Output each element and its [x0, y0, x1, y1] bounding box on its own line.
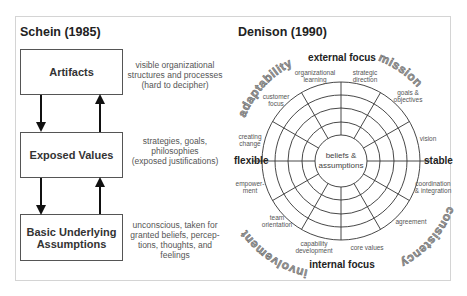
- index-goals-objectives: goals & objectives: [388, 89, 428, 103]
- trait-adaptability: adaptability: [235, 56, 295, 120]
- index-capability-development: capability development: [292, 240, 336, 254]
- index-creating-change: creating change: [235, 133, 265, 147]
- index-customer-focus: customer focus: [260, 93, 292, 107]
- trait-involvement: involvement: [237, 228, 308, 281]
- center-label: beliefs & assumptions: [311, 151, 371, 171]
- index-core-values: core values: [347, 244, 387, 251]
- denison-title: Denison (1990): [238, 25, 327, 39]
- trait-consistency: consistency: [398, 205, 458, 271]
- diagram-graphics: adaptability mission consistency involve…: [0, 0, 467, 296]
- axis-label-left: flexible: [234, 155, 268, 166]
- index-team-orientation: team orientation: [259, 214, 295, 228]
- axis-label-right: stable: [424, 155, 453, 166]
- axis-label-bottom: internal focus: [300, 259, 384, 270]
- schein-arrows: [41, 95, 100, 214]
- index-vision: vision: [413, 135, 443, 142]
- index-empowerment: empower- ment: [235, 180, 265, 194]
- axis-label-top: external focus: [300, 52, 384, 63]
- index-organizational-learning: organizational learning: [290, 69, 340, 83]
- index-agreement: agreement: [393, 218, 429, 225]
- index-strategic-direction: strategic direction: [345, 69, 385, 83]
- index-coordination-integration: coordination & integration: [413, 180, 453, 194]
